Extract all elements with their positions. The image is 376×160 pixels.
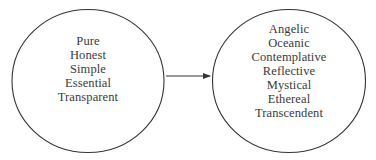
right-label-angelic: Angelic [269, 22, 309, 36]
right-label-contemplative: Contemplative [252, 50, 327, 64]
right-label-reflective: Reflective [263, 64, 315, 78]
left-label-simple: Simple [70, 62, 106, 76]
right-label-ethereal: Ethereal [268, 92, 310, 106]
right-label-mystical: Mystical [267, 78, 312, 92]
left-label-pure: Pure [76, 34, 99, 48]
left-label-transparent: Transparent [58, 90, 118, 104]
left-label-honest: Honest [70, 48, 106, 62]
right-label-oceanic: Oceanic [268, 36, 310, 50]
right-label-transcendent: Transcendent [255, 106, 323, 120]
left-node-labels: Pure Honest Simple Essential Transparent [28, 34, 148, 104]
left-label-essential: Essential [65, 76, 111, 90]
right-node-labels: Angelic Oceanic Contemplative Reflective… [229, 22, 349, 120]
